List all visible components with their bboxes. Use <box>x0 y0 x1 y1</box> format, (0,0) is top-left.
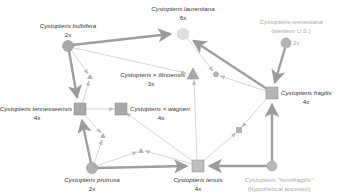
label-laurentiana-name: Cystopteris laurentiana <box>151 5 215 12</box>
label-wagneri-ploidy: 4x <box>158 114 165 121</box>
node-small-triangle-b[interactable] <box>100 133 106 138</box>
edge-tenuis-sq-small <box>202 133 236 162</box>
label-bulbifera-name: Cystopteris bulbifera <box>40 22 97 29</box>
label-illinoensis-ploidy: 3x <box>148 80 155 87</box>
edge-tennesseensis-tri-b <box>83 113 101 133</box>
label-tennesseensis-name: Cystopteris tennesseensis <box>0 105 72 112</box>
node-tenuis-square[interactable] <box>192 160 204 172</box>
label-tennesseensis-ploidy: 4x <box>34 114 41 121</box>
node-illinoensis-triangle[interactable] <box>187 68 199 79</box>
label-protrusa-ploidy: 2x <box>89 185 96 192</box>
label-protrusa-name: Cystopteris protrusa <box>64 176 120 183</box>
label-fragilis-ploidy: 4x <box>303 98 310 105</box>
edge-tennesseensis-tri-a <box>82 81 89 105</box>
label-wagneri-name: Cystopteris × wagneri <box>130 105 190 112</box>
edge-fragilis-laurentiana <box>194 41 267 89</box>
edge-protrusa-tri-b <box>94 140 102 164</box>
node-fragilis-square[interactable] <box>266 87 278 99</box>
edge-protrusa-tri-c <box>96 152 137 166</box>
node-laurentiana-hexagon[interactable] <box>178 28 189 40</box>
label-reevesiana-name: Cystopteris reevesiana <box>260 18 323 25</box>
label-hemifragilis-name: Cystopteris "hemifragilis" <box>245 176 314 183</box>
edge-bulbifera-laurentiana <box>72 34 170 45</box>
node-tennesseensis-square[interactable] <box>74 103 86 115</box>
edge-protrusa-tennesseensis <box>82 121 91 163</box>
labels: Cystopteris bulbifera 2x Cystopteris lau… <box>0 5 332 192</box>
label-illinoensis-name: Cystopteris × illinoensis <box>120 71 185 78</box>
label-tenuis-ploidy: 4x <box>195 185 202 192</box>
label-hemifragilis-sub: (hypothetical ancestor) <box>248 185 311 192</box>
node-small-triangle-a[interactable] <box>87 74 93 79</box>
edge-protrusa-tenuis <box>97 166 186 168</box>
label-reevesiana-sub: (western U.S.) <box>271 27 311 34</box>
thin-edges <box>70 38 268 166</box>
label-laurentiana-ploidy: 6x <box>180 14 187 21</box>
edge-bulbifera-tennesseensis <box>69 51 77 97</box>
label-reevesiana-ploidy: 2x <box>293 39 300 46</box>
label-bulbifera-ploidy: 2x <box>65 31 72 38</box>
label-tenuis-name: Cystopteris tenuis <box>173 176 222 183</box>
node-small-square[interactable] <box>236 127 242 133</box>
node-reevesiana-circle[interactable] <box>281 38 291 48</box>
node-small-pentagon-a[interactable] <box>213 71 219 77</box>
label-fragilis-name: Cystopteris fragilis <box>281 89 332 96</box>
edge-tenuis-illinoensis <box>194 80 197 161</box>
edge-laurentiana-pent-a <box>187 38 213 71</box>
node-small-triangle-c[interactable] <box>138 148 144 153</box>
edge-tenuis-tri-c <box>145 151 193 164</box>
node-protrusa-circle[interactable] <box>87 163 98 174</box>
nodes <box>63 28 292 174</box>
reticulogram-diagram: Cystopteris bulbifera 2x Cystopteris lau… <box>0 0 339 195</box>
node-wagneri-square[interactable] <box>115 103 127 115</box>
node-bulbifera-circle[interactable] <box>63 41 74 52</box>
node-hemifragilis-circle[interactable] <box>267 161 277 171</box>
edge-reevesiana-fragilis <box>275 48 285 82</box>
edge-bulbifera-illinoensis <box>70 47 186 73</box>
edge-fragilis-sq-small <box>242 97 268 127</box>
